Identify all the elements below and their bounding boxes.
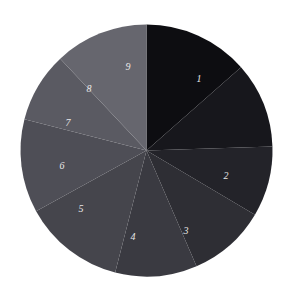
pie-slice-label-2: 2 (224, 170, 229, 181)
pie-slice-label-1: 1 (197, 73, 202, 84)
pie-slice-label-4: 4 (131, 231, 136, 242)
pie-chart-svg: 123456789 (0, 0, 286, 301)
pie-slice-label-3: 3 (183, 225, 189, 236)
pie-slice-label-6: 6 (60, 160, 65, 171)
pie-slice-label-9: 9 (126, 61, 131, 72)
pie-slice-group (21, 25, 273, 277)
pie-slice-label-5: 5 (79, 203, 84, 214)
pie-chart-container: 123456789 (0, 0, 286, 301)
pie-slice-label-8: 8 (87, 83, 92, 94)
